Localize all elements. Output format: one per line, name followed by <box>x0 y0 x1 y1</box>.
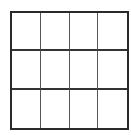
grid-cell <box>12 51 41 89</box>
grid-cell <box>41 13 70 51</box>
grid-cell <box>70 13 99 51</box>
grid-cell <box>12 90 41 128</box>
grid-cell <box>70 51 99 89</box>
grid-cell <box>98 90 127 128</box>
grid-table <box>10 11 129 130</box>
grid-cell <box>98 51 127 89</box>
grid-cell <box>41 51 70 89</box>
grid-cell <box>98 13 127 51</box>
grid-cell <box>12 13 41 51</box>
grid-cell <box>70 90 99 128</box>
grid-cell <box>41 90 70 128</box>
